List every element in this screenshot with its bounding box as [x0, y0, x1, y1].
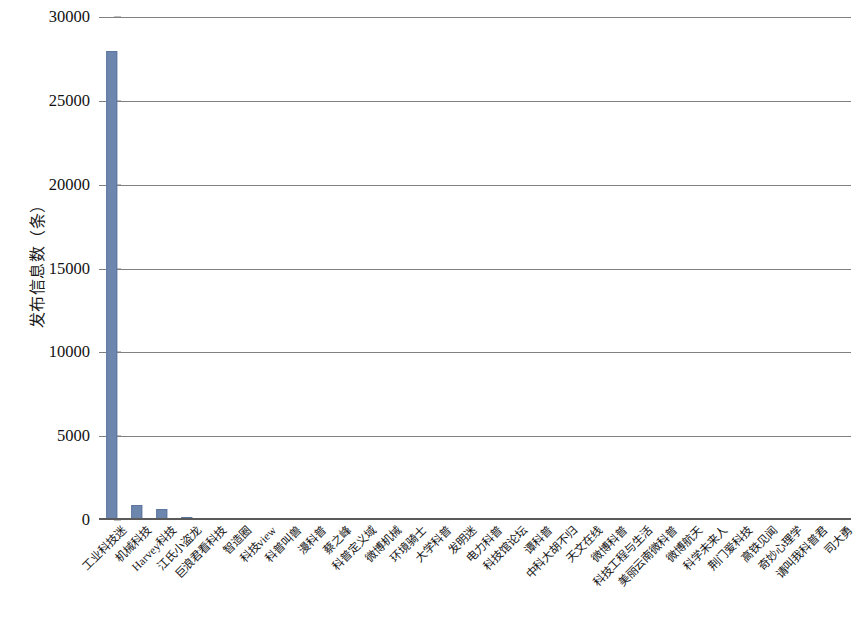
y-tick-label: 20000 [22, 175, 90, 195]
y-tick-label: 10000 [22, 342, 90, 362]
bar-chart: 发布信息数（条） 050001000015000200002500030000 … [0, 0, 868, 626]
bar-slot [350, 17, 375, 520]
bar-slot [375, 17, 400, 520]
x-tick-label: 司大勇 [823, 524, 855, 556]
bar-slot [274, 17, 299, 520]
bar-slot [776, 17, 801, 520]
y-axis-tick-labels: 050001000015000200002500030000 [22, 0, 90, 520]
bar-slot [174, 17, 199, 520]
bar-slot [500, 17, 525, 520]
bar-slot [826, 17, 851, 520]
bar-slot [199, 17, 224, 520]
y-tick-label: 30000 [22, 7, 90, 27]
bar-slot [124, 17, 149, 520]
bar-slot [249, 17, 274, 520]
bar-slot [425, 17, 450, 520]
y-tick-label: 0 [22, 510, 90, 530]
x-axis-tick-labels: 工业科技迷机械科技Harvey科技江氏小盗龙巨浪君看科技智造圈科技view科普叫… [99, 522, 851, 626]
bar-slot [751, 17, 776, 520]
bar [106, 51, 118, 520]
bar-slot [450, 17, 475, 520]
x-axis-line [99, 518, 851, 520]
bar-slot [325, 17, 350, 520]
bar-slot [475, 17, 500, 520]
bar-slot [600, 17, 625, 520]
bar-slot [676, 17, 701, 520]
bar-slot [99, 17, 124, 520]
bar-slot [801, 17, 826, 520]
bar-slot [650, 17, 675, 520]
bar-slot [525, 17, 550, 520]
bar-slot [701, 17, 726, 520]
bar-slot [550, 17, 575, 520]
bar-series [99, 17, 851, 520]
plot-area [99, 17, 851, 520]
bar-slot [400, 17, 425, 520]
y-tick-label: 5000 [22, 426, 90, 446]
bar-slot [224, 17, 249, 520]
bar-slot [575, 17, 600, 520]
y-tick-label: 15000 [22, 259, 90, 279]
y-tick-label: 25000 [22, 91, 90, 111]
bar-slot [726, 17, 751, 520]
x-tick-label: 漫科普 [296, 524, 328, 556]
bar-slot [149, 17, 174, 520]
bar-slot [625, 17, 650, 520]
bar-slot [300, 17, 325, 520]
